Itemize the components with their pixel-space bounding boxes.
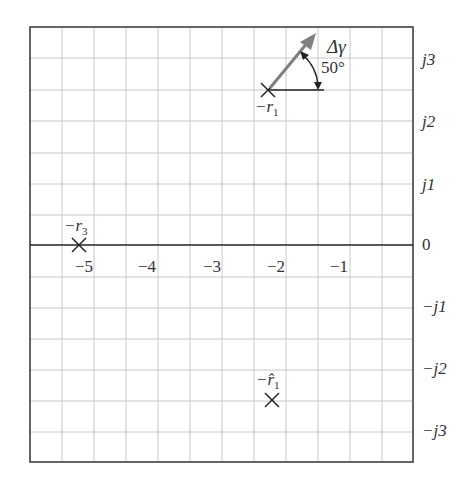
y-tick-j3: j3 [422,51,435,68]
pole-r3-sub: 3 [82,225,88,237]
pole-r1hat-text: −r̂ [256,370,274,389]
y-tick-minus-j2: −j2 [422,360,447,377]
x-tick-minus5: −5 [75,258,93,275]
delta-gamma-label: Δγ [327,37,346,56]
y-tick-minus-j3: −j3 [422,422,447,439]
pole-r1-label: −r1 [255,98,279,118]
x-tick-minus1: −1 [330,258,348,275]
pole-r1hat-label: −r̂1 [256,371,280,391]
pole-r1hat-marker [265,393,279,407]
x-tick-minus2: −2 [267,258,285,275]
y-tick-j2: j2 [422,113,435,130]
y-tick-j1: j1 [422,176,435,193]
pole-r1hat-sub: 1 [274,379,280,391]
angle-label: 50° [321,59,345,76]
angle-arc [300,51,322,90]
x-tick-minus3: −3 [203,258,221,275]
pole-r3-text: −r [64,216,82,235]
pole-r3-label: −r3 [64,217,88,237]
pole-r1-text: −r [255,97,273,116]
y-tick-zero: 0 [422,236,431,253]
y-tick-minus-j1: −j1 [422,298,447,315]
pole-r1-sub: 1 [273,106,279,118]
pole-plot-canvas [0,0,474,481]
x-tick-minus4: −4 [138,258,156,275]
